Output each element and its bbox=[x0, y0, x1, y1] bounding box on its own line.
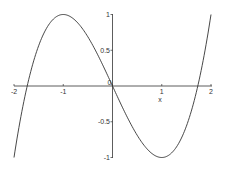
x-tick-label: 1 bbox=[160, 88, 164, 95]
y-tick-label: -1 bbox=[104, 154, 110, 161]
y-tick-label: 0.5 bbox=[100, 47, 110, 54]
y-tick-label: 1 bbox=[106, 11, 110, 18]
x-tick-label: 2 bbox=[209, 88, 213, 95]
x-axis-label: x bbox=[158, 96, 162, 103]
chart-plot: -2-1012 10.5-0.5-1 x bbox=[0, 0, 226, 172]
y-tick-label: -0.5 bbox=[98, 118, 110, 125]
x-ticks: -2-1012 bbox=[11, 79, 213, 95]
x-tick-label: -1 bbox=[60, 88, 66, 95]
x-tick-label: -2 bbox=[11, 88, 17, 95]
